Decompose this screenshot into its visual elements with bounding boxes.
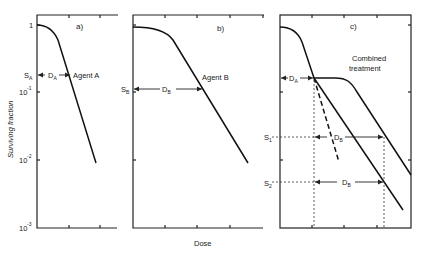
- agent-b-curve: [133, 27, 248, 163]
- y-axis-title: Surviving fraction: [6, 100, 15, 158]
- panel-c-frame: [280, 15, 411, 228]
- panel-b-tag: b): [217, 24, 224, 33]
- panel-a-ticks: [37, 15, 100, 228]
- panel-c-agent-b-line: [314, 78, 403, 210]
- panel-c-agent-a-curve: [280, 27, 314, 78]
- d-a-label: DA: [48, 71, 57, 81]
- s1-d-b-label: DB: [334, 133, 343, 143]
- panel-c-d-a-label: DA: [289, 74, 298, 84]
- s2-d-b-label: DB: [342, 178, 351, 188]
- panel-b: b) SB DB Agent B: [121, 15, 264, 228]
- panel-b-axes: [133, 15, 264, 228]
- agent-a-curve: [37, 25, 96, 163]
- s-a-label: SA: [24, 71, 33, 81]
- agent-b-label: Agent B: [202, 73, 229, 82]
- svg-text:1: 1: [29, 21, 33, 30]
- combined-label-1: Combined: [352, 54, 386, 63]
- panel-a: a) SA DA Agent A: [24, 15, 118, 228]
- panel-b-ticks: [133, 15, 263, 228]
- panel-a-axes: [37, 15, 118, 228]
- s2-label: S2: [264, 179, 272, 189]
- agent-a-extrapolation-dashed: [314, 78, 339, 162]
- x-axis-title: Dose: [194, 239, 212, 248]
- combined-label-2: treatment: [349, 64, 382, 73]
- d-b-label: DB: [162, 85, 171, 95]
- panel-c-ticks: [280, 15, 411, 228]
- panel-a-tag: a): [76, 22, 83, 31]
- s1-label: S1: [264, 133, 272, 143]
- panel-c: c) Combined treatment DA S1 DB S2 DB: [264, 15, 411, 228]
- svg-text:-2: -2: [27, 153, 32, 159]
- svg-text:-1: -1: [27, 85, 32, 91]
- agent-a-label: Agent A: [73, 71, 99, 80]
- s-b-label: SB: [121, 85, 130, 95]
- svg-text:-3: -3: [27, 221, 32, 227]
- panel-c-tag: c): [350, 22, 357, 31]
- survival-curves-figure: Surviving fraction 1 10 -1 10 -2 10 -3 a…: [0, 0, 427, 256]
- y-tick-labels: 1 10 -1 10 -2 10 -3: [19, 21, 33, 233]
